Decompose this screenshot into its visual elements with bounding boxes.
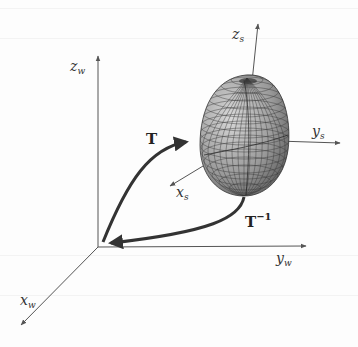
forward-transform-label: T: [146, 130, 158, 148]
frame-transform-diagram: zw yw xw: [0, 0, 358, 347]
z-w-label: zw: [69, 58, 85, 76]
y-s-label: ys: [311, 123, 325, 141]
superquadric-mesh: [200, 75, 290, 196]
x-w-axis: [21, 247, 98, 325]
y-w-label: yw: [275, 250, 292, 268]
bleed-through-text: [0, 8, 358, 296]
diagram-canvas: zw yw xw: [0, 0, 358, 347]
inverse-transform-arrow: [111, 197, 244, 243]
z-s-label: zs: [231, 26, 244, 44]
x-s-label: xs: [176, 184, 189, 202]
x-w-label: xw: [20, 292, 36, 310]
y-w-axis: [98, 246, 306, 247]
forward-transform-arrow: [103, 142, 186, 242]
inverse-transform-label: T−1: [245, 211, 272, 231]
